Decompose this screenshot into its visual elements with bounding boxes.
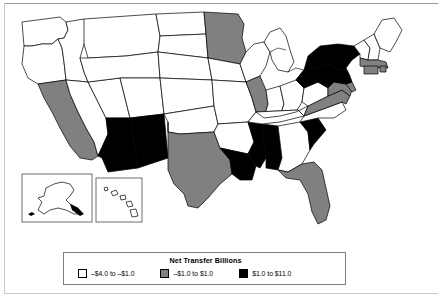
figure-frame-bottom	[4, 293, 438, 294]
state-ND	[156, 12, 206, 36]
legend-swatch-mid	[160, 269, 169, 278]
legend-item-high[interactable]: $1.0 to $11.0	[239, 269, 291, 278]
legend-item-mid[interactable]: –$1.0 to $1.0	[160, 269, 213, 278]
state-CT	[364, 66, 378, 74]
legend-items: –$4.0 to –$1.0 –$1.0 to $1.0 $1.0 to $11…	[64, 269, 347, 278]
legend-swatch-high	[239, 269, 248, 278]
figure-frame-top	[4, 3, 438, 4]
legend-item-low[interactable]: –$4.0 to –$1.0	[78, 269, 134, 278]
inset-hawaii	[96, 178, 142, 222]
legend-label-high: $1.0 to $11.0	[252, 270, 291, 277]
legend-label-low: –$4.0 to –$1.0	[91, 270, 134, 277]
state-MI	[264, 28, 294, 72]
legend-swatch-low	[78, 269, 87, 278]
legend-title: Net Transfer Billions	[64, 256, 347, 265]
figure-frame-left	[4, 3, 5, 294]
state-MT	[84, 14, 160, 58]
state-FL	[278, 162, 330, 224]
legend-label-mid: –$1.0 to $1.0	[173, 270, 213, 277]
inset-alaska	[22, 174, 92, 222]
us-choropleth-map	[8, 8, 434, 243]
state-RI	[380, 66, 386, 72]
state-MN	[204, 12, 246, 64]
map-legend: Net Transfer Billions –$4.0 to –$1.0 –$1…	[63, 252, 346, 285]
map-svg	[8, 8, 434, 243]
figure-container: Net Transfer Billions –$4.0 to –$1.0 –$1…	[0, 0, 442, 304]
state-OR	[22, 39, 66, 84]
